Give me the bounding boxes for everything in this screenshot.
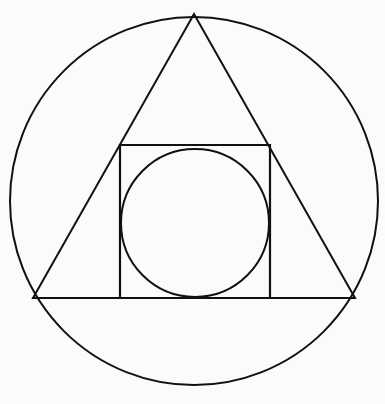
- figure-background: [0, 0, 385, 404]
- geometric-figure-canvas: [0, 0, 385, 404]
- squared-circle-diagram: [0, 0, 385, 404]
